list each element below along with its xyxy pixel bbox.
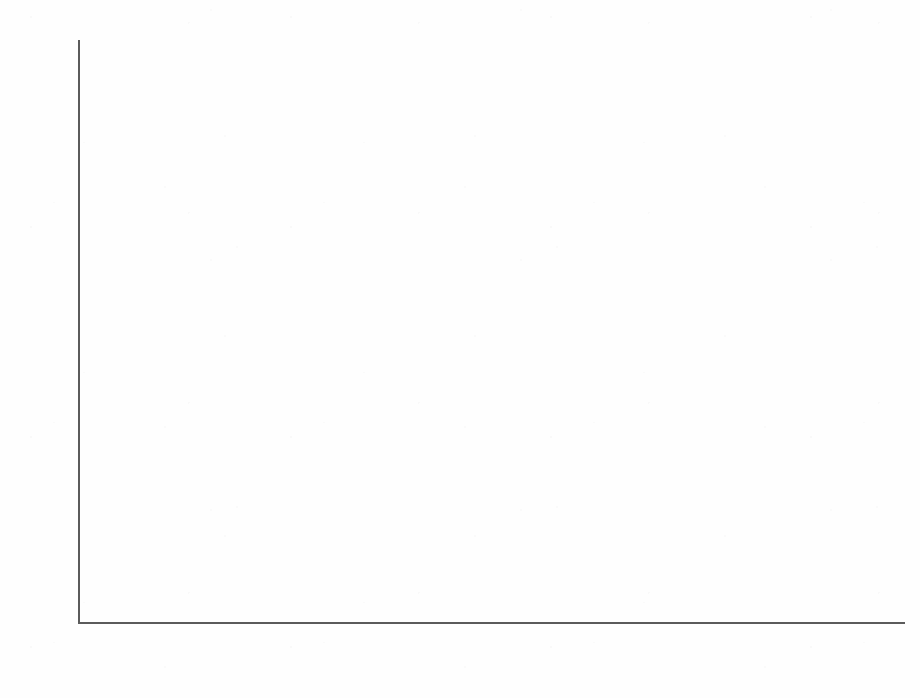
- bars-layer: [78, 40, 905, 623]
- y-axis-tick-labels: [0, 0, 72, 698]
- x-axis-line: [78, 622, 905, 624]
- bar-chart: [0, 0, 920, 698]
- y-axis-line: [78, 40, 80, 624]
